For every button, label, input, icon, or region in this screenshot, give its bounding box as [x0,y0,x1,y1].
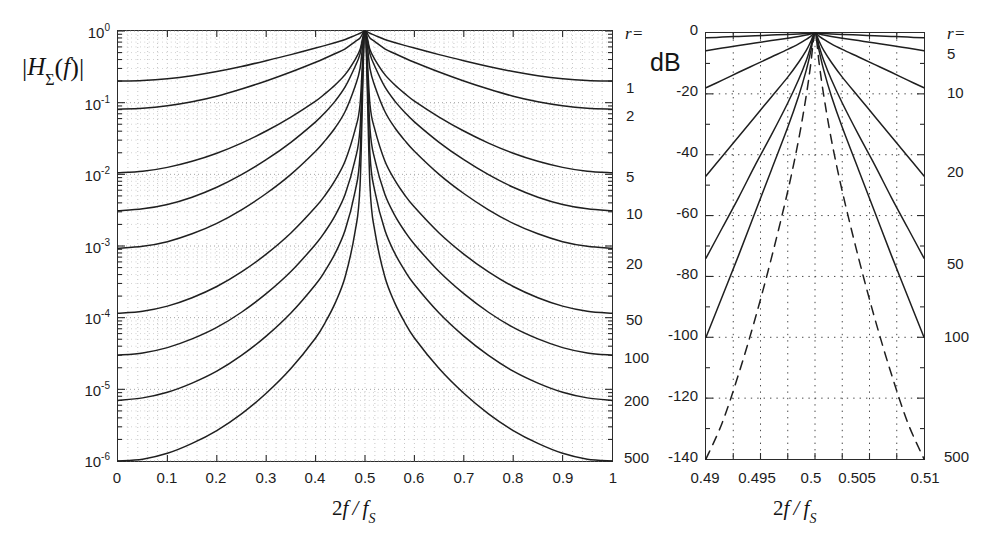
right-rlabel-50: 50 [947,256,964,271]
left-xtick-5: 0.5 [345,470,385,485]
right-ytick-7: -140 [634,449,698,464]
right-ytick-0: 0 [640,22,698,37]
left-rlabel-2: 2 [626,108,634,123]
right-xtick-3: 0.505 [826,470,888,485]
left-xtick-2: 0.2 [196,470,236,485]
left-ytick-6: 10-6 [58,453,110,469]
left-xtick-1: 0.1 [147,470,187,485]
left-ytick-5: 10-5 [58,382,110,398]
left-plot-area [117,30,613,462]
left-xtick-9: 0.9 [543,470,583,485]
right-x-axis-label: 2f / fS [773,496,816,524]
left-rlabel-5: 5 [626,169,634,184]
curve-r-500 [706,33,924,459]
right-plot-area [705,32,925,460]
left-ytick-2: 10-2 [58,167,110,183]
right-ytick-5: -100 [634,327,698,342]
left-xtick-6: 0.6 [394,470,434,485]
curve-r-10 [118,31,612,211]
right-xtick-4: 0.51 [898,470,952,485]
right-ytick-3: -60 [640,205,698,220]
right-ytick-1: -20 [640,83,698,98]
left-xtick-0: 0 [97,470,137,485]
right-r-header: r = [947,24,965,44]
right-xtick-0: 0.49 [678,470,732,485]
left-ytick-4: 10-4 [58,310,110,326]
right-ytick-4: -80 [640,266,698,281]
left-xtick-4: 0.4 [295,470,335,485]
left-xtick-8: 0.8 [493,470,533,485]
right-rlabel-10: 10 [947,85,964,100]
curve-r-20 [706,33,924,88]
right-xtick-1: 0.495 [726,470,788,485]
left-xtick-7: 0.7 [444,470,484,485]
left-rlabel-50: 50 [626,312,643,327]
left-ytick-1: 10-1 [58,96,110,112]
left-rlabel-1: 1 [626,80,634,95]
left-xtick-3: 0.3 [246,470,286,485]
curve-r-1 [118,31,612,81]
right-rlabel-5: 5 [947,46,955,61]
left-x-axis-label: 2f / fS [332,496,375,524]
figure-page: |HΣ(f)| 100 10-1 10-2 10-3 10-4 10-5 10-… [0,0,994,544]
left-ytick-3: 10-3 [58,239,110,255]
left-xtick-10: 1 [593,470,633,485]
curve-r-2 [118,31,612,109]
right-ytick-2: -40 [640,144,698,159]
right-rlabel-500: 500 [944,449,969,464]
left-rlabel-100: 100 [624,350,649,365]
left-y-axis-label: |HΣ(f)| [22,52,84,85]
curve-r-100 [706,33,924,258]
left-ytick-0: 100 [58,24,110,40]
right-rlabel-20: 20 [947,164,964,179]
right-y-axis-label: dB [650,48,681,77]
right-rlabel-100: 100 [944,329,969,344]
curve-r-50 [118,31,612,313]
right-ytick-6: -120 [634,388,698,403]
